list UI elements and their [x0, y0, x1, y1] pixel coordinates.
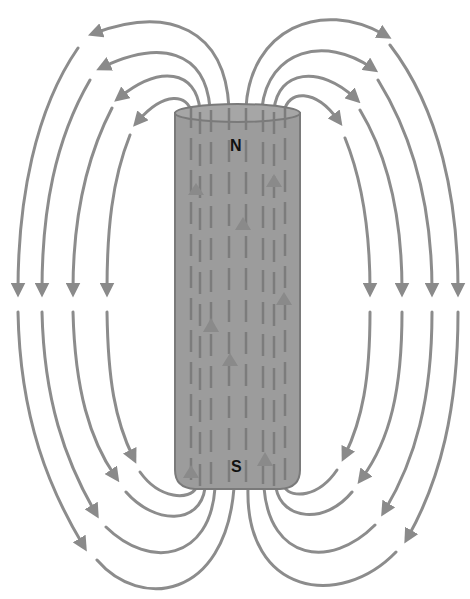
- south-pole-label: S: [231, 458, 242, 476]
- magnet-top-face: [175, 104, 300, 122]
- field-line-right-2-side: [378, 80, 432, 290]
- bar-magnet: [175, 104, 300, 489]
- field-line-right-3-lower: [362, 312, 402, 478]
- field-line-right-4-lower: [345, 312, 370, 455]
- field-line-left-1-side: [18, 48, 78, 290]
- field-line-left-4-lower: [107, 312, 133, 457]
- field-line-left-2-bottom: [106, 488, 215, 553]
- field-line-left-1-lower: [18, 312, 83, 545]
- north-pole-label: N: [230, 137, 242, 155]
- field-line-left-2-top: [103, 53, 210, 108]
- field-line-right-4-side: [345, 138, 370, 290]
- field-line-right-1-bottom: [248, 488, 396, 585]
- field-line-right-3-side: [360, 110, 402, 290]
- field-line-left-4-side: [107, 135, 130, 290]
- magnet-field-diagram: [0, 0, 470, 599]
- field-line-right-1-lower: [408, 312, 458, 537]
